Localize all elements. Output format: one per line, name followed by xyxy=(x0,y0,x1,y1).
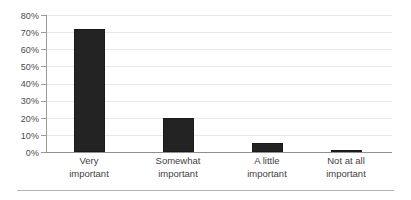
x-label-line1: Somewhat xyxy=(134,155,222,168)
x-label-not-at-all-important: Not at all important xyxy=(302,155,390,180)
bar-not-at-all-important xyxy=(331,150,362,152)
x-label-a-little-important: A little important xyxy=(223,155,311,180)
y-tick-label: 30% xyxy=(21,97,39,106)
y-axis-tick xyxy=(41,152,46,153)
x-label-somewhat-important: Somewhat important xyxy=(134,155,222,180)
bar-somewhat-important xyxy=(163,118,194,152)
bar-very-important xyxy=(74,29,105,152)
x-label-line1: Very xyxy=(45,155,133,168)
bottom-divider xyxy=(17,190,394,191)
y-tick-label: 40% xyxy=(21,80,39,89)
x-label-line1: A little xyxy=(223,155,311,168)
y-axis-tick xyxy=(41,84,46,85)
y-tick-label: 50% xyxy=(21,63,39,72)
y-tick-label: 60% xyxy=(21,46,39,55)
y-axis-tick xyxy=(41,32,46,33)
y-axis-tick xyxy=(41,118,46,119)
plot-area xyxy=(47,15,392,152)
y-axis-tick-labels: 80% 70% 60% 50% 40% 30% 20% 10% 0% xyxy=(0,0,46,200)
y-axis-tick xyxy=(41,49,46,50)
y-tick-label: 0% xyxy=(26,149,39,158)
y-tick-label: 70% xyxy=(21,29,39,38)
x-label-line2: important xyxy=(45,168,133,181)
bar-a-little-important xyxy=(252,143,283,152)
x-axis-category-labels: Very important Somewhat important A litt… xyxy=(47,155,392,185)
bar-chart: 80% 70% 60% 50% 40% 30% 20% 10% 0% Very … xyxy=(0,0,411,200)
y-axis-tick xyxy=(41,15,46,16)
x-label-line1: Not at all xyxy=(302,155,390,168)
y-axis-tick xyxy=(41,66,46,67)
y-tick-label: 20% xyxy=(21,115,39,124)
x-label-very-important: Very important xyxy=(45,155,133,180)
x-label-line2: important xyxy=(223,168,311,181)
x-label-line2: important xyxy=(302,168,390,181)
y-tick-label: 80% xyxy=(21,12,39,21)
x-axis-line xyxy=(46,152,392,153)
x-label-line2: important xyxy=(134,168,222,181)
y-axis-tick xyxy=(41,135,46,136)
y-axis-tick xyxy=(41,101,46,102)
y-tick-label: 10% xyxy=(21,132,39,141)
